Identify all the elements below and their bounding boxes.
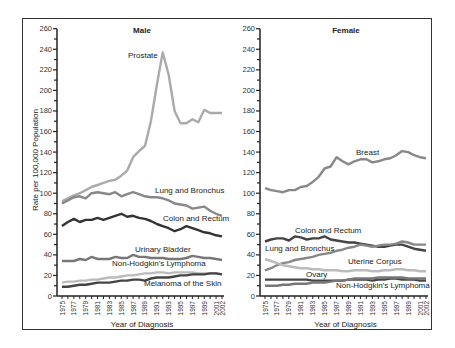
y-tick-label: 140	[242, 148, 255, 157]
x-tick-label: 1979	[285, 301, 292, 316]
x-tick-label: 1987	[130, 301, 137, 316]
x-tick-label: 2002	[219, 301, 226, 316]
x-tick-label: 1999	[201, 301, 208, 316]
y-tick-label: 160	[39, 127, 52, 136]
x-tick-label: 1991	[357, 301, 364, 316]
y-tick-label: 120	[39, 168, 52, 177]
panel-title: Female	[332, 26, 360, 35]
y-tick-label: 80	[44, 209, 52, 218]
chart-canvas: Male020406080100120140160180200220240260…	[0, 0, 455, 348]
series-label: Lung and Bronchus	[155, 186, 224, 195]
y-tick-label: 260	[39, 24, 52, 33]
y-tick-label: 80	[247, 209, 255, 218]
series-label: Prostate	[128, 51, 158, 60]
y-tick-label: 140	[39, 148, 52, 157]
y-tick-label: 240	[242, 45, 255, 54]
x-tick-label: 1993	[165, 301, 172, 316]
series-line	[62, 192, 222, 216]
series-label: Non-Hodgkin's Lymphoma	[112, 259, 206, 268]
series-label: Non-Hodgkin's Lymphoma	[336, 281, 430, 290]
x-tick-label: 1987	[333, 301, 340, 316]
x-tick-label: 1979	[82, 301, 89, 316]
y-tick-label: 120	[242, 168, 255, 177]
x-tick-label: 1993	[369, 301, 376, 316]
y-tick-label: 60	[44, 230, 52, 239]
series-label: Urinary Bladder	[135, 245, 191, 254]
y-tick-label: 0	[251, 292, 255, 301]
x-tick-label: 1997	[189, 301, 196, 316]
x-tick-label: 1995	[177, 301, 184, 316]
x-tick-label: 1997	[393, 301, 400, 316]
series-label: Ovary	[306, 270, 327, 279]
y-tick-label: 180	[39, 106, 52, 115]
x-tick-label: 1985	[321, 301, 328, 316]
y-tick-label: 200	[39, 86, 52, 95]
x-tick-label: 1989	[345, 301, 352, 316]
y-axis-label: Rate per 100,000 Population	[31, 109, 40, 211]
x-tick-label: 1991	[153, 301, 160, 316]
y-tick-label: 220	[39, 65, 52, 74]
y-tick-label: 200	[242, 86, 255, 95]
x-axis-label: Year of Diagnosis	[314, 320, 376, 329]
series-label: Breast	[356, 148, 380, 157]
y-tick-label: 40	[247, 250, 255, 259]
series-label: Uterine Corpus	[348, 257, 402, 266]
series-line	[265, 151, 426, 192]
x-tick-label: 1977	[70, 301, 77, 316]
x-tick-label: 1975	[262, 301, 269, 316]
x-tick-label: 1995	[381, 301, 388, 316]
y-tick-label: 160	[242, 127, 255, 136]
y-tick-label: 0	[48, 292, 52, 301]
y-tick-label: 100	[39, 189, 52, 198]
y-tick-label: 240	[39, 45, 52, 54]
x-tick-label: 1983	[106, 301, 113, 316]
y-tick-label: 60	[247, 230, 255, 239]
x-tick-label: 1983	[309, 301, 316, 316]
series-label: Colon and Rectum	[163, 214, 230, 223]
y-tick-label: 260	[242, 24, 255, 33]
y-tick-label: 220	[242, 65, 255, 74]
y-tick-label: 180	[242, 106, 255, 115]
series-line	[62, 52, 222, 201]
x-tick-label: 1981	[297, 301, 304, 316]
panel-title: Male	[133, 26, 151, 35]
series-label: Melanoma of the Skin	[144, 279, 221, 288]
y-tick-label: 20	[44, 271, 52, 280]
x-axis-label: Year of Diagnosis	[111, 320, 173, 329]
y-tick-label: 20	[247, 271, 255, 280]
series-label: Colon and Rectum	[295, 226, 362, 235]
x-tick-label: 1975	[59, 301, 66, 316]
x-tick-label: 1999	[405, 301, 412, 316]
x-tick-label: 1989	[141, 301, 148, 316]
x-tick-label: 1977	[273, 301, 280, 316]
y-tick-label: 100	[242, 189, 255, 198]
x-tick-label: 1985	[118, 301, 125, 316]
x-tick-label: 1981	[94, 301, 101, 316]
series-label: Lung and Bronchus	[265, 244, 334, 253]
y-tick-label: 40	[44, 250, 52, 259]
x-tick-label: 2002	[423, 301, 430, 316]
